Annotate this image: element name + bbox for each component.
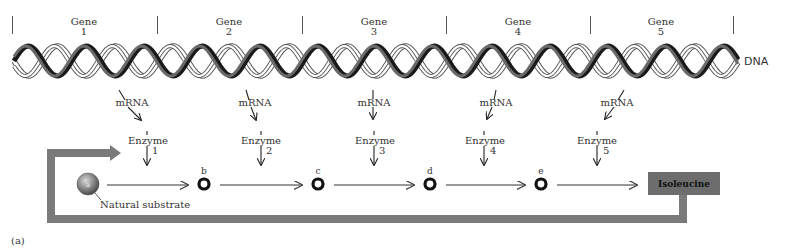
isoleucine-label: Isoleucine	[658, 179, 710, 189]
dna-helix	[14, 46, 738, 76]
enzyme-1-label: Enzyme	[118, 135, 178, 146]
isoleucine-product-box: Isoleucine	[648, 172, 720, 195]
intermediate-e-ring	[536, 179, 546, 189]
natural-substrate-label: Natural substrate	[100, 199, 190, 210]
enzyme-5-number: 5	[603, 145, 609, 156]
intermediate-e-label: e	[531, 166, 551, 176]
enzyme-2-label: Enzyme	[231, 135, 291, 146]
intermediate-d-ring	[425, 179, 435, 189]
enzyme-4-number: 4	[490, 145, 496, 156]
intermediate-d-label: d	[420, 166, 440, 176]
panel-label: (a)	[11, 235, 25, 246]
intermediate-c-ring	[313, 179, 323, 189]
enzyme-3-label: Enzyme	[345, 135, 405, 146]
intermediate-b-ring	[199, 179, 209, 189]
mrna-4-label: mRNA	[466, 97, 526, 108]
enzyme-2-number: 2	[266, 145, 272, 156]
natural-substrate-ball: a	[77, 173, 101, 200]
mrna-1-label: mRNA	[102, 97, 162, 108]
intermediate-rings	[199, 179, 546, 189]
intermediate-c-label: c	[308, 166, 328, 176]
enzyme-3-number: 3	[379, 145, 385, 156]
enzyme-4-label: Enzyme	[455, 135, 515, 146]
diagram-graphics: a	[0, 0, 792, 249]
intermediate-b-label: b	[194, 166, 214, 176]
substrate-letter: a	[86, 181, 90, 189]
mrna-5-label: mRNA	[587, 97, 647, 108]
mrna-3-label: mRNA	[344, 97, 404, 108]
enzyme-5-label: Enzyme	[567, 135, 627, 146]
dna-label: DNA	[744, 55, 768, 68]
enzyme-1-number: 1	[152, 145, 158, 156]
mrna-2-label: mRNA	[225, 97, 285, 108]
